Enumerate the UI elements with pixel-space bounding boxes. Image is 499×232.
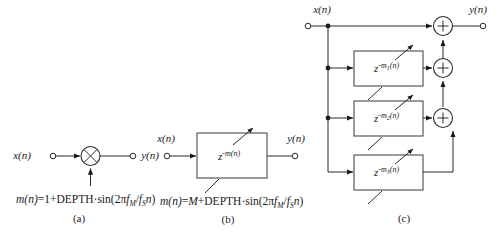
formula-b-sin: sin	[245, 195, 259, 207]
formula-a-twopi: 2π	[115, 193, 127, 205]
panel-b-output-terminal	[292, 153, 298, 159]
formula-b-twopi: 2π	[262, 195, 274, 207]
panel-b-control-formula: m(n)=M+DEPTH·sin(2πfM/fSn)	[160, 195, 303, 210]
panel-b-output-label: y(n)	[286, 132, 305, 145]
panel-c-block-2-exp-suffix: (n)	[390, 111, 400, 120]
svg-text:m(n)=M+DEPTH·sin(2πfM/fSn): m(n)=M+DEPTH·sin(2πfM/fSn)	[160, 195, 303, 210]
formula-a-sin: sin	[97, 193, 111, 205]
panel-a-input-terminal	[50, 153, 56, 159]
panel-c-input-terminal	[305, 23, 311, 29]
panel-b-input-label: x(n)	[156, 132, 175, 145]
panel-c-branch-out-3	[423, 131, 453, 172]
panel-b-leader-line	[205, 179, 219, 193]
panel-c-block-3-exp-prefix: -m	[378, 165, 387, 174]
panel-c-block-3-exp-suffix: (n)	[390, 165, 400, 174]
formula-a-depth: DEPTH	[56, 193, 93, 205]
formula-b-close: )	[299, 195, 303, 208]
panel-c-caption: (c)	[398, 212, 411, 225]
panel-a-output-label: y(n)	[140, 149, 159, 162]
panel-b-block-exponent: -m(n)	[222, 149, 240, 158]
panel-c-block-2-exp-prefix: -m	[378, 111, 387, 120]
panel-c: z-m1(n) z-m2(n) z-m3(n)	[305, 3, 487, 225]
panel-a: x(n) y(n) m(n)=1+DEPTH·sin(2πfM/fSn) (a)	[12, 147, 159, 226]
panel-c-output-label: y(n)	[468, 3, 487, 16]
formula-a-close: )	[152, 193, 156, 206]
panel-b-input-terminal	[164, 153, 170, 159]
panel-c-output-terminal	[480, 23, 486, 29]
panel-c-block-1-exp-prefix: -m	[378, 61, 387, 70]
figure-canvas: x(n) y(n) m(n)=1+DEPTH·sin(2πfM/fSn) (a)…	[0, 0, 499, 232]
svg-text:m(n)=1+DEPTH·sin(2πfM/fSn): m(n)=1+DEPTH·sin(2πfM/fSn)	[16, 193, 156, 208]
panel-b-caption: (b)	[222, 213, 235, 226]
panel-a-input-label: x(n)	[12, 149, 31, 162]
formula-a-lhs: m(n)	[16, 193, 38, 206]
formula-b-depth: DEPTH	[204, 195, 241, 207]
panel-c-input-label: x(n)	[312, 3, 331, 16]
panel-c-block-1-exp-suffix: (n)	[390, 61, 400, 70]
panel-c-leader-line-3	[368, 191, 382, 204]
signal-flow-diagram: x(n) y(n) m(n)=1+DEPTH·sin(2πfM/fSn) (a)…	[0, 0, 499, 232]
formula-b-lhs: m(n)	[160, 195, 182, 208]
panel-c-leader-line-2	[368, 137, 382, 150]
panel-a-caption: (a)	[73, 212, 86, 225]
panel-c-leader-line-1	[368, 87, 382, 100]
panel-a-control-formula: m(n)=1+DEPTH·sin(2πfM/fSn)	[16, 193, 156, 208]
panel-b: z-m(n) x(n) y(n) m(n)=M+DEPTH·sin(2πfM/f…	[156, 128, 305, 226]
panel-a-output-terminal	[130, 153, 136, 159]
